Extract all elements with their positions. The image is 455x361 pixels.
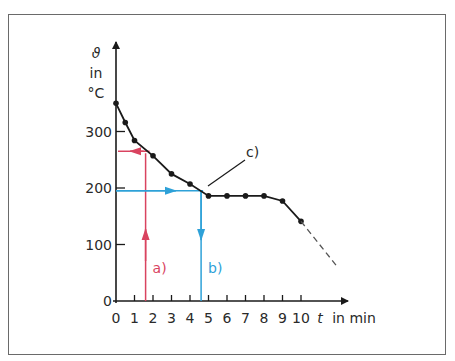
data-point	[206, 193, 212, 199]
x-tick-label: 2	[149, 310, 158, 326]
y-axis-in: in	[90, 65, 103, 81]
data-point	[224, 193, 230, 199]
cooling-curve-line	[116, 103, 301, 221]
data-point	[150, 153, 156, 159]
extrapolation-dashed-line	[301, 221, 338, 267]
y-tick-label: 300	[85, 124, 112, 140]
x-tick-label: 3	[167, 310, 176, 326]
y-axis-unit: °C	[88, 85, 105, 101]
x-tick-label: 0	[112, 310, 121, 326]
data-point	[113, 100, 119, 106]
annotation-c-label: c)	[246, 144, 259, 160]
y-tick-label: 0	[103, 293, 112, 309]
y-axis-symbol: ϑ	[92, 45, 101, 61]
annotation-c-leader	[208, 160, 245, 186]
x-tick-label: 8	[260, 310, 269, 326]
y-tick-label: 200	[85, 180, 112, 196]
x-tick-label: 4	[186, 310, 195, 326]
x-tick-label: 6	[223, 310, 232, 326]
x-tick-label: 9	[278, 310, 287, 326]
x-axis-symbol: t	[317, 310, 323, 326]
data-point	[122, 120, 128, 126]
x-axis-unit: in min	[332, 310, 376, 326]
x-tick-label: 5	[204, 310, 213, 326]
data-point	[187, 181, 193, 187]
data-point	[243, 193, 249, 199]
annotation-a-label: a)	[153, 260, 167, 276]
data-point	[261, 193, 267, 199]
y-tick-label: 100	[85, 237, 112, 253]
data-point	[132, 138, 138, 144]
data-point	[169, 171, 175, 177]
x-tick-label: 7	[241, 310, 250, 326]
annotation-b-label: b)	[208, 260, 222, 276]
data-point	[280, 198, 286, 204]
x-tick-label: 1	[130, 310, 139, 326]
x-tick-label: 10	[292, 310, 310, 326]
cooling-curve-chart: 0100200300012345678910ϑin°Ctin mina)b)c)	[0, 0, 455, 361]
